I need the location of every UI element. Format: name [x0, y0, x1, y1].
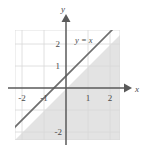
graph-figure: -2 -1 1 2 2 1 -2 y x y = x: [0, 0, 146, 149]
x-tick-label-minus2: -2: [18, 93, 26, 103]
y-axis-arrowhead-icon: [62, 14, 71, 22]
coordinate-plane-chart: -2 -1 1 2 2 1 -2 y x y = x: [0, 0, 146, 149]
x-tick-label-2: 2: [108, 93, 113, 103]
y-axis-name-label: y: [60, 4, 65, 14]
x-axis-arrowhead-icon: [124, 84, 132, 93]
x-tick-label-1: 1: [86, 93, 91, 103]
x-axis-name-label: x: [134, 84, 139, 94]
y-tick-label-2: 2: [56, 39, 61, 49]
y-tick-label-1: 1: [56, 61, 61, 71]
line-equation-label: y = x: [74, 35, 93, 45]
y-tick-label-minus2: -2: [55, 127, 63, 137]
x-tick-label-minus1: -1: [40, 93, 48, 103]
